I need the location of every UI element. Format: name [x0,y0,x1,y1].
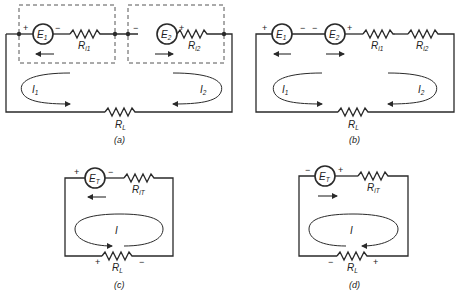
caption-a: (a) [114,135,125,145]
node-dot [17,32,21,36]
resistor-rl [338,108,370,116]
i2-label: I2 [418,84,425,96]
current-loop-i2-arrow-icon [388,73,437,104]
panel-b: E1 + − E2 − + Ri1 Ri2 RL I1 I2 (b) [256,23,454,145]
node-dot [113,32,117,36]
current-loop-i2-arrow-icon [173,73,222,104]
ri2-label: Ri2 [416,40,429,52]
ri1-label: Ri1 [371,40,384,52]
panel-a: E1 + − Ri1 E2 − + Ri2 RL I1 I2 (a) [6,5,232,145]
rit-label: RiT [132,184,146,196]
panel-d: ET − + RiT RL − + I (d) [299,165,408,290]
resistor-rl [102,252,135,260]
minus-sign: − [305,165,310,175]
node-dot [126,32,130,36]
rit-label: RiT [367,182,381,194]
node-dot [222,32,226,36]
minus-sign: − [312,23,317,33]
ri2-label: Ri2 [188,40,201,52]
minus-sign: − [139,257,144,267]
i2-label: I2 [200,84,207,96]
resistor-rl [337,252,370,260]
minus-sign: − [300,23,305,33]
minus-sign: − [328,257,333,267]
i1-label: I1 [282,84,289,96]
rl-label: RL [348,119,359,131]
caption-d: (d) [349,280,360,290]
ri1-label: Ri1 [78,40,91,52]
plus-sign: + [262,23,267,33]
plus-sign: + [179,23,184,33]
wire [299,176,337,256]
resistor-rit [124,174,157,182]
plus-sign: + [74,167,79,177]
current-loop-i1-arrow-icon [273,73,322,104]
minus-sign: − [55,23,60,33]
current-loop-i-arrow-icon [75,214,163,246]
rl-label: RL [347,262,358,274]
wire [256,34,338,112]
caption-c: (c) [114,280,125,290]
panel-c: ET + − RiT RL + − I (c) [65,167,173,290]
plus-sign: + [23,23,28,33]
resistor-ri1 [70,30,103,38]
resistor-rl [105,108,138,116]
resistor-rit [358,172,390,180]
rl-label: RL [115,119,126,131]
plus-sign: + [373,257,378,267]
minus-sign: − [108,167,113,177]
current-loop-i-arrow-icon [309,214,398,246]
circuit-diagram-figure: E1 + − Ri1 E2 − + Ri2 RL I1 I2 (a) E1 [0,0,462,297]
plus-sign: + [338,165,343,175]
i-label: I [115,225,118,236]
resistor-ri2 [408,30,440,38]
current-loop-i1-arrow-icon [21,73,70,104]
i1-label: I1 [32,84,39,96]
resistor-ri1 [363,30,395,38]
plus-sign: + [347,23,352,33]
rl-label: RL [112,262,123,274]
caption-b: (b) [349,135,360,145]
i-label: I [350,225,353,236]
plus-sign: + [95,257,100,267]
minus-sign: − [133,23,138,33]
